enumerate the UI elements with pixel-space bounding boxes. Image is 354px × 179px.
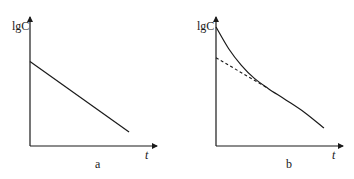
chart-canvas xyxy=(0,0,354,179)
caption-b: b xyxy=(286,158,292,170)
caption-a: a xyxy=(95,158,100,170)
x-axis-label-b: t xyxy=(332,149,335,161)
y-axis-label-a: lgC xyxy=(12,20,29,32)
panel-b xyxy=(216,17,343,146)
curve-b-solid xyxy=(216,27,324,128)
y-axis-label-b: lgC xyxy=(197,20,214,32)
line-b-dashed xyxy=(216,58,268,89)
line-a-solid xyxy=(30,62,129,132)
panel-a xyxy=(30,17,157,146)
x-axis-label-a: t xyxy=(145,149,148,161)
